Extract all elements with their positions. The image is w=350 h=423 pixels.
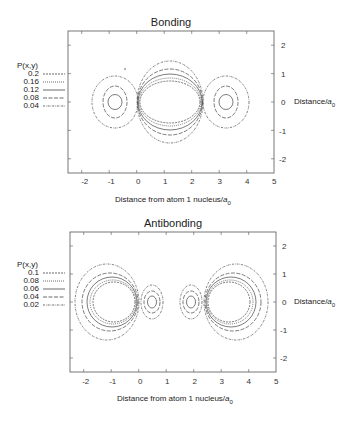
- svg-text:1: 1: [163, 177, 168, 186]
- antibonding-y-axis-label: Distance/a0: [294, 297, 335, 308]
- antibonding-plot: -2 -1 0 1 2 3 4 5 2 1 0 -1 -2: [0, 210, 350, 423]
- antibonding-x-axis-label: Distance from atom 1 nucleus/a0: [117, 394, 233, 405]
- svg-text:2: 2: [192, 377, 197, 386]
- y-tick-labels: 2 1 0 -1 -2: [279, 41, 287, 164]
- svg-text:1: 1: [282, 270, 287, 279]
- svg-text:-2: -2: [280, 354, 288, 363]
- svg-text:1: 1: [281, 70, 286, 79]
- svg-text:2: 2: [281, 41, 286, 50]
- svg-text:1: 1: [165, 377, 170, 386]
- antibonding-panel: Antibonding P(x,y) 0.1 0.08 0.06 0.04 0.…: [0, 210, 350, 423]
- svg-text:0: 0: [282, 298, 287, 307]
- svg-text:4: 4: [246, 377, 251, 386]
- bonding-x-axis-label: Distance from atom 1 nucleus/a0: [115, 195, 231, 206]
- svg-text:5: 5: [274, 377, 279, 386]
- bonding-contours: [92, 61, 249, 143]
- y-tick-labels: 2 1 0 -1 -2: [280, 242, 288, 363]
- svg-text:-1: -1: [109, 377, 117, 386]
- svg-text:-1: -1: [280, 326, 288, 335]
- svg-text:0: 0: [138, 377, 143, 386]
- bonding-y-axis-label: Distance/a0: [294, 97, 335, 108]
- svg-text:3: 3: [219, 377, 224, 386]
- svg-text:2: 2: [282, 242, 287, 251]
- svg-text:3: 3: [217, 177, 222, 186]
- antibonding-contours: [75, 264, 268, 340]
- svg-text:-2: -2: [81, 177, 89, 186]
- bonding-panel: Bonding P(x,y) 0.2 0.16 0.12 0.08 0.04 -…: [0, 0, 350, 210]
- x-tick-labels: -2 -1 0 1 2 3 4 5: [81, 177, 277, 186]
- svg-text:-2: -2: [82, 377, 90, 386]
- svg-text:0: 0: [136, 177, 141, 186]
- svg-text:-1: -1: [279, 127, 287, 136]
- svg-text:5: 5: [272, 177, 277, 186]
- svg-text:0: 0: [281, 98, 286, 107]
- x-tick-labels: -2 -1 0 1 2 3 4 5: [82, 377, 279, 386]
- svg-text:-1: -1: [108, 177, 116, 186]
- svg-text:4: 4: [245, 177, 250, 186]
- svg-text:-2: -2: [279, 155, 287, 164]
- svg-text:2: 2: [190, 177, 195, 186]
